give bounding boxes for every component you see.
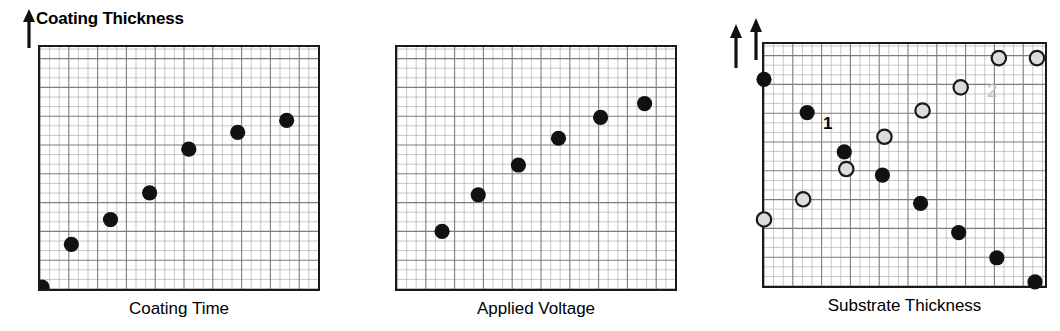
plot-area-1 [38, 45, 320, 291]
data-point [839, 162, 853, 176]
data-point [64, 237, 79, 252]
x-axis-title-2: Applied Voltage [395, 300, 677, 317]
data-points-2 [397, 47, 675, 289]
data-point [551, 131, 566, 146]
data-point [875, 167, 890, 182]
data-point [913, 196, 928, 211]
data-point [756, 72, 771, 87]
panel-applied-voltage: Applied Voltage [350, 0, 700, 331]
x-axis-title-3: Substrate Thickness [762, 297, 1047, 314]
data-point [757, 212, 771, 226]
data-point [992, 51, 1006, 65]
plot-area-2 [395, 45, 677, 291]
data-point [951, 225, 966, 240]
series-label-1: 1 [823, 115, 832, 132]
data-point [593, 110, 608, 125]
y-axis-title-1: Coating Thickness [36, 10, 184, 27]
data-point [637, 96, 652, 111]
data-point [915, 103, 929, 117]
figure-root: Coating Thickness Coating Time Applied V… [0, 0, 1060, 331]
data-point [103, 212, 118, 227]
data-point [38, 279, 50, 291]
data-point [279, 113, 294, 128]
data-point [989, 250, 1004, 265]
data-point [796, 192, 810, 206]
data-point [800, 105, 815, 120]
data-points-1 [40, 47, 318, 289]
data-point [230, 125, 245, 140]
data-point [142, 185, 157, 200]
up-arrow-icon-1 [19, 6, 39, 48]
data-point [954, 80, 968, 94]
data-point [877, 130, 891, 144]
data-points-3 [762, 42, 1047, 288]
data-point [1027, 274, 1042, 289]
panel-substrate-thickness: 1 2 Substrate Thickness [710, 0, 1060, 331]
data-point [511, 157, 526, 172]
data-point [1030, 51, 1044, 65]
panel-coating-time: Coating Thickness Coating Time [0, 0, 350, 331]
data-point [471, 187, 486, 202]
x-axis-title-1: Coating Time [38, 300, 320, 317]
data-point [434, 224, 449, 239]
series-label-2: 2 [987, 82, 997, 100]
data-point [837, 144, 852, 159]
data-point [181, 142, 196, 157]
